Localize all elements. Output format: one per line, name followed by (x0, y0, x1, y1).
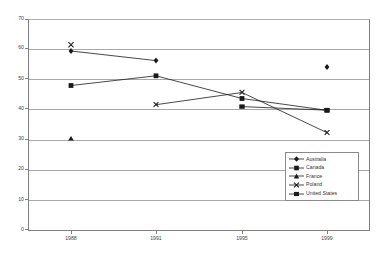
x-axis-label-1995: 1995 (222, 236, 262, 241)
x-tick-mark-1991 (156, 231, 157, 234)
legend-label-canada: Canada (305, 165, 324, 170)
x-axis-label-1988: 1988 (51, 236, 91, 241)
y-axis-label-50: 50 (2, 76, 24, 81)
legend-label-france: France (305, 174, 322, 179)
legend-label-poland: Poland (305, 182, 322, 187)
series-line-canada (71, 76, 327, 111)
legend-item-france: France (288, 172, 355, 181)
series-line-australia (71, 51, 156, 61)
square-marker-icon (288, 190, 305, 198)
y-axis-label-20: 20 (2, 166, 24, 171)
y-axis-label-70: 70 (2, 16, 24, 21)
x-axis-label-1991: 1991 (136, 236, 176, 241)
line-chart: 70 60 50 40 30 20 10 0 1988 1991 1995 19… (0, 0, 388, 265)
x-axis-label-1999: 1999 (307, 236, 347, 241)
y-axis-label-60: 60 (2, 45, 24, 50)
triangle-marker-icon (288, 172, 305, 180)
x-tick-mark-1988 (71, 231, 72, 234)
series-markers-canada (69, 73, 330, 112)
legend-item-poland: Poland (288, 181, 355, 190)
y-axis-label-40: 40 (2, 106, 24, 111)
legend-label-united-states: United States (305, 191, 337, 196)
x-tick-mark-1995 (242, 231, 243, 234)
y-axis-label-30: 30 (2, 136, 24, 141)
series-markers-france (68, 136, 74, 141)
legend-label-australia: Australia (305, 157, 326, 162)
series-markers-poland (68, 42, 329, 135)
legend-item-canada: Canada (288, 164, 355, 173)
cross-marker-icon (288, 181, 305, 189)
y-axis-label-0: 0 (2, 227, 24, 232)
y-axis-label-10: 10 (2, 197, 24, 202)
square-marker-icon (288, 164, 305, 172)
x-tick-mark-1999 (327, 231, 328, 234)
chart-legend: Australia Canada France Poland United St… (285, 152, 359, 201)
diamond-marker-icon (288, 155, 305, 163)
legend-item-united-states: United States (288, 189, 355, 198)
series-markers-australia (69, 48, 330, 70)
legend-item-australia: Australia (288, 155, 355, 164)
